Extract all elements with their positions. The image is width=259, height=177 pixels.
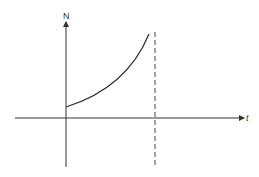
x-axis-label: t (246, 113, 249, 123)
growth-curve (66, 34, 149, 107)
y-axis-label: N (63, 11, 70, 21)
diagram-canvas: N t (0, 0, 259, 177)
